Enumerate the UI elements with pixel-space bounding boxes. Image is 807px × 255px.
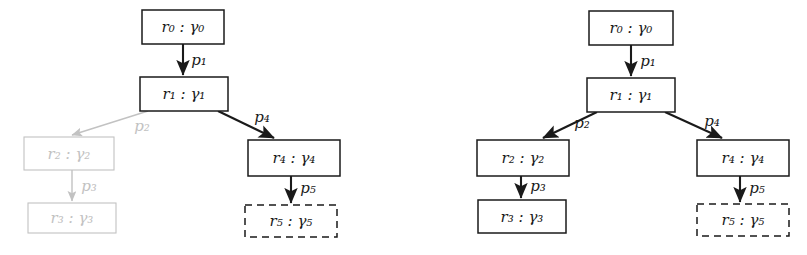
node-label-r5: r₅ : γ₅: [722, 211, 765, 229]
full-rollout-tree: p₁p₂p₄p₃p₅r₀ : γ₀r₁ : γ₁r₂ : γ₂r₃ : γ₃r₄…: [477, 11, 789, 236]
edge-label-e5: p₅: [300, 179, 316, 197]
edge-r1-to-r2: p₂: [72, 111, 150, 135]
edge-label-e4: p₄: [704, 112, 720, 130]
node-label-r1: r₁ : γ₁: [610, 86, 653, 104]
node-r0[interactable]: r₀ : γ₀: [589, 11, 673, 45]
edge-r4-to-r5: p₅: [740, 176, 765, 202]
node-r1[interactable]: r₁ : γ₁: [140, 77, 228, 111]
node-r1[interactable]: r₁ : γ₁: [587, 78, 675, 112]
edge-r1-to-r2: p₂: [543, 112, 597, 138]
node-label-r2: r₂ : γ₂: [502, 149, 545, 167]
tree-diagram-svg: p₁p₂p₄p₃p₅r₀ : γ₀r₁ : γ₁r₂ : γ₂r₃ : γ₃r₄…: [0, 0, 807, 255]
edge-r2-to-r3: p₃: [72, 170, 97, 201]
node-r2[interactable]: r₂ : γ₂: [477, 140, 569, 176]
edge-label-e1: p₁: [191, 51, 207, 69]
node-r4[interactable]: r₄ : γ₄: [697, 140, 789, 176]
edge-label-e2: p₂: [574, 114, 590, 132]
node-r2[interactable]: r₂ : γ₂: [24, 137, 114, 170]
node-label-r5: r₅ : γ₅: [270, 212, 313, 230]
figure-canvas: p₁p₂p₄p₃p₅r₀ : γ₀r₁ : γ₁r₂ : γ₂r₃ : γ₃r₄…: [0, 0, 807, 255]
partial-rollout-tree: p₁p₂p₄p₃p₅r₀ : γ₀r₁ : γ₁r₂ : γ₂r₃ : γ₃r₄…: [24, 10, 340, 237]
diagram-layers: p₁p₂p₄p₃p₅r₀ : γ₀r₁ : γ₁r₂ : γ₂r₃ : γ₃r₄…: [24, 10, 789, 237]
edge-r1-to-r4: p₄: [218, 108, 274, 138]
edge-r0-to-r1: p₁: [183, 44, 207, 75]
node-label-r1: r₁ : γ₁: [163, 85, 206, 103]
edge-r0-to-r1: p₁: [631, 45, 656, 76]
edge-label-e1: p₁: [640, 52, 656, 70]
node-r4[interactable]: r₄ : γ₄: [248, 140, 340, 176]
edge-label-e3: p₃: [81, 177, 97, 195]
edge-label-e5: p₅: [749, 179, 765, 197]
node-label-r4: r₄ : γ₄: [722, 149, 765, 167]
node-r5[interactable]: r₅ : γ₅: [245, 205, 337, 237]
node-r5[interactable]: r₅ : γ₅: [697, 204, 789, 236]
node-r3[interactable]: r₃ : γ₃: [478, 200, 566, 233]
edge-r4-to-r5: p₅: [291, 176, 316, 203]
node-r0[interactable]: r₀ : γ₀: [142, 10, 224, 44]
edge-r1-to-r4: p₄: [665, 112, 722, 138]
node-label-r0: r₀ : γ₀: [162, 18, 205, 36]
node-label-r4: r₄ : γ₄: [273, 149, 316, 167]
node-label-r3: r₃ : γ₃: [51, 209, 94, 227]
edge-label-e3: p₃: [530, 177, 546, 195]
edge-label-e2: p₂: [134, 117, 150, 135]
edge-label-e4: p₄: [254, 108, 270, 126]
node-label-r2: r₂ : γ₂: [48, 145, 91, 163]
node-label-r0: r₀ : γ₀: [610, 19, 653, 37]
node-label-r3: r₃ : γ₃: [501, 208, 544, 226]
edge-r2-to-r3: p₃: [521, 176, 546, 198]
node-r3[interactable]: r₃ : γ₃: [28, 203, 116, 233]
